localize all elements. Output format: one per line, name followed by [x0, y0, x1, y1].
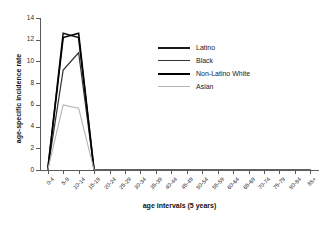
legend-item-asian[interactable]: Asian	[158, 80, 308, 93]
chart-figure: age-specific incidence rate 02468101214 …	[0, 0, 325, 225]
legend-swatch-icon	[158, 60, 190, 61]
legend-item-label: Non-Latino White	[196, 70, 250, 77]
legend-swatch-icon	[158, 86, 190, 87]
legend-item-non-latino-white[interactable]: Non-Latino White	[158, 67, 308, 80]
legend-item-label: Latino	[196, 44, 215, 51]
legend-item-label: Black	[196, 57, 213, 64]
chart-legend: LatinoBlackNon-Latino WhiteAsian	[158, 41, 308, 93]
legend-swatch-icon	[158, 73, 190, 75]
legend-item-latino[interactable]: Latino	[158, 41, 308, 54]
data-series-layer	[0, 0, 325, 225]
legend-item-label: Asian	[196, 83, 214, 90]
x-axis-title: age intervals (5 years)	[40, 202, 319, 209]
legend-swatch-icon	[158, 47, 190, 49]
legend-item-black[interactable]: Black	[158, 54, 308, 67]
